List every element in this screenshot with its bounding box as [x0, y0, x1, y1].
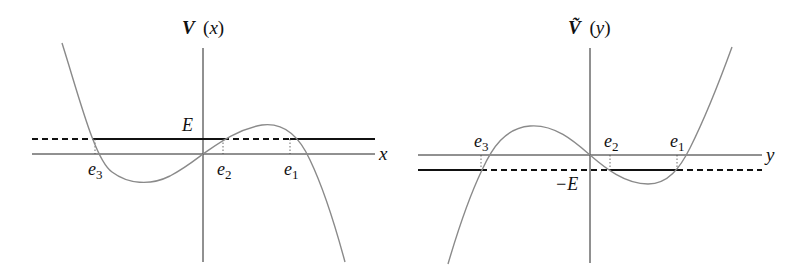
left-root-e3: e3 — [88, 159, 103, 182]
right-energy-label: −E — [555, 174, 578, 194]
right-axis-label: y — [764, 144, 775, 165]
left-axis-label: x — [378, 143, 388, 164]
left-root-e1: e1 — [284, 159, 299, 182]
right-root-e1: e1 — [670, 131, 685, 154]
right-root-e3: e3 — [474, 131, 489, 154]
right-root-e2: e2 — [604, 131, 619, 154]
left-title: V (x) — [182, 17, 224, 39]
left-root-e2: e2 — [217, 159, 232, 182]
left-plot: V (x) E x e3 e2 e1 — [32, 17, 388, 262]
potential-diagrams: V (x) E x e3 e2 e1 Ṽ (y) — [0, 0, 805, 275]
left-energy-label: E — [181, 115, 193, 135]
right-plot: Ṽ (y) −E y e3 e2 e1 — [418, 17, 775, 264]
right-title: Ṽ (y) — [568, 17, 611, 39]
